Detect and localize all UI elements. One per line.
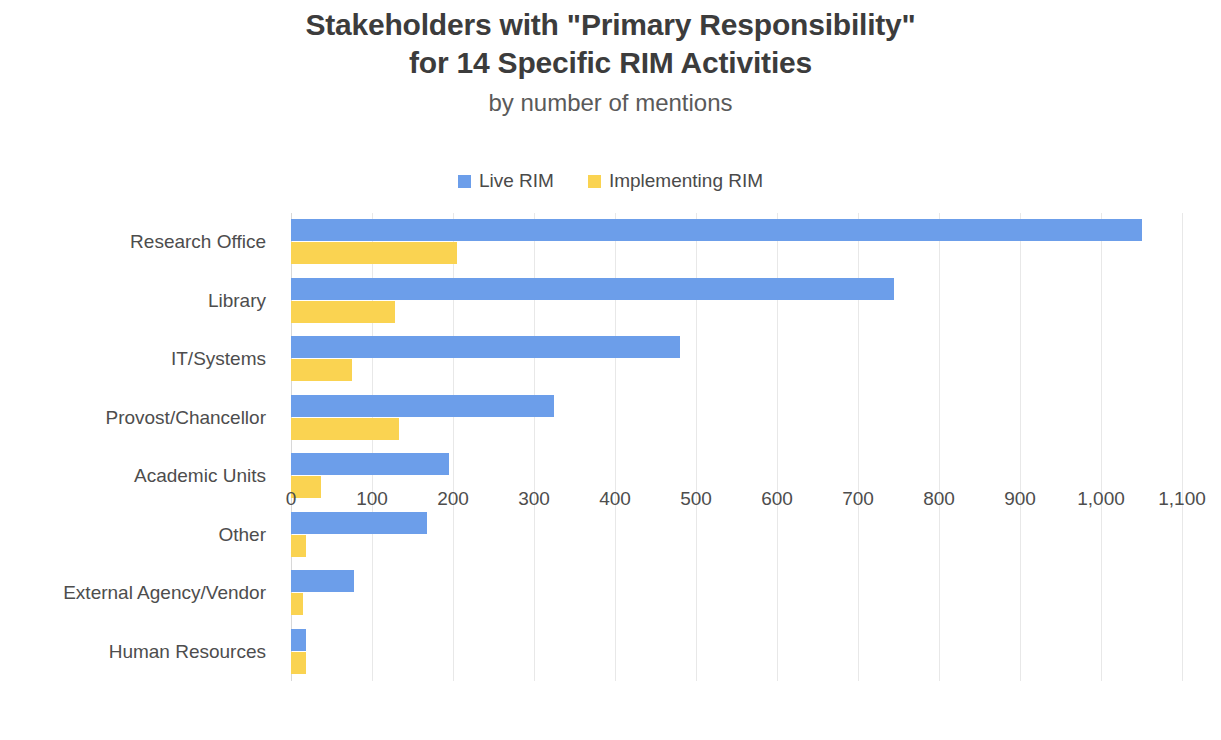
bar-live-rim[interactable] [291, 395, 554, 417]
legend-swatch-icon [458, 175, 471, 188]
x-axis-tick-label: 400 [599, 488, 631, 510]
x-axis-tick-label: 200 [437, 488, 469, 510]
bar-group [291, 389, 1182, 448]
chart-title-line-1: Stakeholders with "Primary Responsibilit… [0, 6, 1221, 44]
x-axis-tick-label: 100 [356, 488, 388, 510]
bar-group [291, 623, 1182, 682]
legend-item[interactable]: Implementing RIM [588, 170, 763, 192]
bar-implementing-rim[interactable] [291, 652, 306, 674]
y-axis-label: Human Resources [109, 641, 266, 663]
x-axis-tick-label: 900 [1004, 488, 1036, 510]
x-axis-tick-labels: 01002003004005006007008009001,0001,100 [291, 478, 1182, 518]
chart-legend: Live RIMImplementing RIM [0, 170, 1221, 192]
y-axis-category-labels: Research OfficeLibraryIT/SystemsProvost/… [0, 213, 276, 681]
y-axis-label: Research Office [130, 231, 266, 253]
plot-area-wrapper: Research OfficeLibraryIT/SystemsProvost/… [0, 213, 1221, 740]
gridline [1182, 213, 1183, 681]
bar-live-rim[interactable] [291, 336, 680, 358]
bar-group [291, 564, 1182, 623]
legend-item[interactable]: Live RIM [458, 170, 554, 192]
x-axis-tick-label: 800 [923, 488, 955, 510]
bar-live-rim[interactable] [291, 278, 894, 300]
y-axis-label: Provost/Chancellor [105, 407, 266, 429]
chart-subtitle: by number of mentions [0, 84, 1221, 122]
y-axis-label: Library [208, 290, 266, 312]
bar-live-rim[interactable] [291, 219, 1142, 241]
y-axis-label: Academic Units [134, 465, 266, 487]
legend-item-label: Live RIM [479, 170, 554, 192]
x-axis-tick-label: 600 [761, 488, 793, 510]
legend-item-label: Implementing RIM [609, 170, 763, 192]
bar-implementing-rim[interactable] [291, 301, 395, 323]
bar-implementing-rim[interactable] [291, 418, 399, 440]
plot-area [291, 213, 1182, 681]
bar-implementing-rim[interactable] [291, 242, 457, 264]
chart-title-block: Stakeholders with "Primary Responsibilit… [0, 6, 1221, 122]
y-axis-label: IT/Systems [171, 348, 266, 370]
bar-implementing-rim[interactable] [291, 593, 303, 615]
bar-implementing-rim[interactable] [291, 359, 352, 381]
x-axis-tick-label: 500 [680, 488, 712, 510]
bar-group [291, 213, 1182, 272]
bar-live-rim[interactable] [291, 453, 449, 475]
bar-live-rim[interactable] [291, 570, 354, 592]
y-axis-label: External Agency/Vendor [63, 582, 266, 604]
x-axis-tick-label: 0 [286, 488, 297, 510]
bar-implementing-rim[interactable] [291, 535, 306, 557]
x-axis-tick-label: 300 [518, 488, 550, 510]
x-axis-tick-label: 700 [842, 488, 874, 510]
y-axis-label: Other [218, 524, 266, 546]
x-axis-tick-label: 1,000 [1077, 488, 1125, 510]
chart-title-line-2: for 14 Specific RIM Activities [0, 44, 1221, 82]
bar-group [291, 272, 1182, 331]
bar-group [291, 330, 1182, 389]
chart-container: Stakeholders with "Primary Responsibilit… [0, 0, 1221, 740]
legend-swatch-icon [588, 175, 601, 188]
x-axis-tick-label: 1,100 [1158, 488, 1206, 510]
bar-live-rim[interactable] [291, 629, 306, 651]
